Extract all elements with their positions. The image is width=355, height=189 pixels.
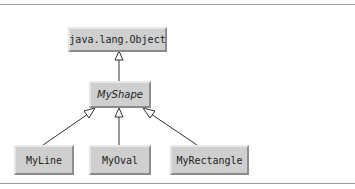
class-name: java.lang.Object: [69, 34, 165, 45]
class-name: MyOval: [102, 155, 138, 166]
class-box-myrectangle: MyRectangle: [170, 145, 249, 175]
abstract-class-name: MyShape: [97, 89, 143, 100]
class-box-object: java.lang.Object: [68, 27, 167, 52]
class-name: MyLine: [26, 155, 62, 166]
class-box-myoval: MyOval: [89, 145, 151, 175]
class-name: MyRectangle: [176, 155, 242, 166]
class-box-myshape: MyShape: [89, 81, 151, 108]
class-box-myline: MyLine: [14, 145, 74, 175]
